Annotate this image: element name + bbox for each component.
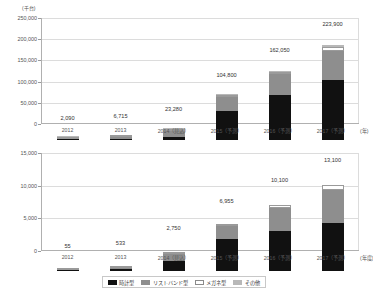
bar-stack[interactable] xyxy=(163,233,185,271)
x-axis-tick-label: 2017（予測） xyxy=(317,127,349,134)
y-axis-tick-label: 0 xyxy=(0,121,37,127)
y-axis-tick-mark xyxy=(38,39,41,40)
y-axis-unit-label-top: (千台) xyxy=(22,4,35,11)
x-axis-tick-label: 2016（予測） xyxy=(264,127,296,134)
legend-swatch-icon xyxy=(233,280,242,285)
y-axis-tick-mark xyxy=(38,124,41,125)
y-axis-tick-mark xyxy=(38,186,41,187)
legend-item[interactable]: メガネ型 xyxy=(195,279,227,286)
bar-value-label: 23,280 xyxy=(165,106,182,112)
y-axis-tick-label: 250,000 xyxy=(0,15,37,21)
bar-segment-watch xyxy=(163,261,185,271)
y-axis-tick-mark xyxy=(38,153,41,154)
legend-box: 時計型リストバンド型メガネ型その他 xyxy=(102,276,266,288)
legend-label: メガネ型 xyxy=(206,279,226,286)
bar-value-label: 162,050 xyxy=(269,47,289,53)
x-axis-tick-label: 2014（見込） xyxy=(158,127,190,134)
bar-segment-watch xyxy=(57,139,79,140)
y-axis-tick-label: 100,000 xyxy=(0,79,37,85)
x-axis-tick-label: 2017（予測） xyxy=(317,254,349,261)
x-axis-unit-label: (年) xyxy=(360,127,368,134)
chart-legend: 時計型リストバンド型メガネ型その他 xyxy=(0,274,367,290)
legend-label: その他 xyxy=(245,279,260,286)
bar-value-label: 104,800 xyxy=(216,72,236,78)
legend-swatch-icon xyxy=(108,280,117,285)
x-axis-tick-label: 2015（予測） xyxy=(211,127,243,134)
gridline xyxy=(42,82,359,83)
plot-area-top xyxy=(41,18,359,124)
gridline xyxy=(42,218,359,219)
gridline xyxy=(42,39,359,40)
bar-value-label: 2,750 xyxy=(167,225,181,231)
x-axis-tick-label: 2014（見込） xyxy=(158,254,190,261)
bar-value-label: 223,900 xyxy=(322,21,342,27)
bar-segment-watch xyxy=(322,223,344,271)
gridline xyxy=(42,153,359,154)
plot-area-bottom xyxy=(41,153,359,251)
bar-value-label: 6,715 xyxy=(114,113,128,119)
x-axis-tick-label: 2012 xyxy=(62,254,74,260)
gridline xyxy=(42,18,359,19)
x-axis-tick-label: 2016（予測） xyxy=(264,254,296,261)
x-axis-tick-label: 2013 xyxy=(115,254,127,260)
legend-item[interactable]: 時計型 xyxy=(108,279,135,286)
bar-segment-watch xyxy=(110,269,132,271)
bar-segment-wrist xyxy=(269,74,291,95)
bar-value-label: 533 xyxy=(116,240,125,246)
bar-segment-wrist xyxy=(216,97,238,111)
bar-value-label: 2,090 xyxy=(61,115,75,121)
bar-value-label: 6,955 xyxy=(220,198,234,204)
legend-swatch-icon xyxy=(141,280,150,285)
y-axis-tick-label: 10,000 xyxy=(0,183,37,189)
gridline xyxy=(42,186,359,187)
gridline xyxy=(42,60,359,61)
legend-label: リストバンド型 xyxy=(153,279,188,286)
legend-label: 時計型 xyxy=(119,279,134,286)
plot-right-edge-top xyxy=(358,18,359,123)
chart-panel-bottom: 05,00010,00015,00055201253320132,7502014… xyxy=(0,143,367,271)
legend-swatch-icon xyxy=(195,280,204,285)
y-axis-tick-label: 5,000 xyxy=(0,215,37,221)
y-axis-tick-label: 150,000 xyxy=(0,57,37,63)
y-axis-tick-mark xyxy=(38,60,41,61)
bar-segment-wrist xyxy=(269,208,291,231)
y-axis-tick-mark xyxy=(38,18,41,19)
x-axis-tick-label: 2012 xyxy=(62,127,74,133)
x-axis-unit-label: (年度) xyxy=(360,254,373,261)
bar-segment-wrist xyxy=(322,190,344,223)
y-axis-tick-mark xyxy=(38,82,41,83)
y-axis-tick-mark xyxy=(38,218,41,219)
bar-value-label: 10,100 xyxy=(271,177,288,183)
y-axis-tick-mark xyxy=(38,103,41,104)
chart-panel-top: (千台) 050,000100,000150,000200,000250,000… xyxy=(0,4,367,140)
bar-stack[interactable] xyxy=(216,206,238,271)
bar-segment-watch xyxy=(269,231,291,271)
bar-segment-wrist xyxy=(216,226,238,239)
y-axis-tick-mark xyxy=(38,251,41,252)
y-axis-tick-label: 200,000 xyxy=(0,36,37,42)
bar-stack[interactable] xyxy=(322,29,344,140)
y-axis-tick-label: 15,000 xyxy=(0,150,37,156)
bar-value-label: 13,100 xyxy=(324,157,341,163)
bar-segment-watch xyxy=(110,139,132,140)
x-axis-tick-label: 2013 xyxy=(115,127,127,133)
x-axis-tick-label: 2015（予測） xyxy=(211,254,243,261)
bar-segment-watch xyxy=(57,270,79,271)
y-axis-tick-label: 0 xyxy=(0,248,37,254)
gridline xyxy=(42,103,359,104)
bar-segment-wrist xyxy=(322,51,344,79)
bar-segment-watch xyxy=(163,137,185,140)
y-axis-tick-label: 50,000 xyxy=(0,100,37,106)
legend-item[interactable]: リストバンド型 xyxy=(141,279,188,286)
bar-segment-watch xyxy=(216,111,238,140)
plot-right-edge-bottom xyxy=(358,153,359,250)
bar-value-label: 55 xyxy=(64,243,70,249)
legend-item[interactable]: その他 xyxy=(233,279,260,286)
